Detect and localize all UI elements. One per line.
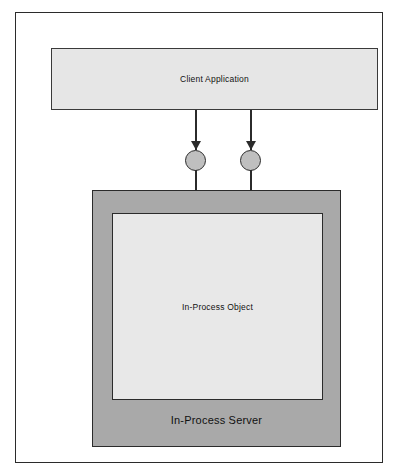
interface-connector-2-lower-line [250, 170, 252, 192]
in-process-server-box[interactable]: In-Process Object In-Process Server [92, 190, 341, 447]
interface-circle-1[interactable] [185, 150, 206, 171]
diagram-canvas: Client Application In-Process Object In-… [0, 0, 400, 475]
in-process-server-label: In-Process Server [93, 414, 340, 426]
arrow-down-icon-2 [246, 141, 256, 150]
in-process-object-box[interactable]: In-Process Object [112, 213, 323, 400]
interface-circle-2[interactable] [240, 150, 261, 171]
in-process-object-label: In-Process Object [182, 302, 253, 312]
client-application-label: Client Application [180, 74, 249, 84]
interface-connector-1-lower-line [195, 170, 197, 192]
arrow-down-icon-1 [191, 141, 201, 150]
client-application-box[interactable]: Client Application [51, 48, 378, 110]
outer-frame: Client Application In-Process Object In-… [15, 12, 383, 463]
